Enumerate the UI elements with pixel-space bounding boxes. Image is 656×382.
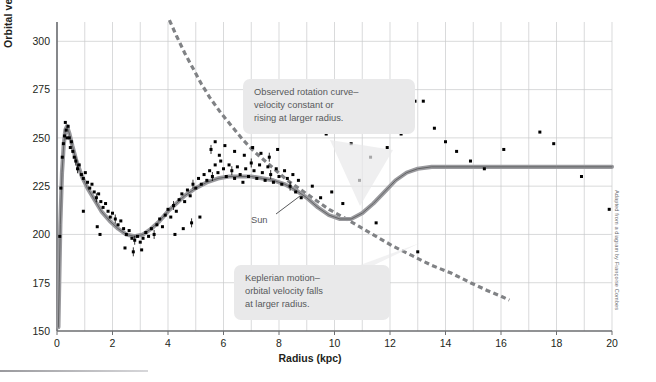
data-point bbox=[200, 183, 203, 186]
data-point bbox=[580, 175, 583, 178]
data-point bbox=[255, 177, 258, 180]
figure-credit: Adapted from a diagram by Françoise Comb… bbox=[614, 190, 620, 360]
data-point bbox=[150, 227, 153, 230]
data-point bbox=[191, 183, 194, 186]
data-point bbox=[236, 165, 239, 168]
y-tick-label: 225 bbox=[32, 180, 50, 192]
y-tick-label: 150 bbox=[32, 325, 50, 337]
data-point bbox=[164, 214, 167, 217]
data-point bbox=[205, 179, 208, 182]
data-point bbox=[283, 169, 286, 172]
data-point bbox=[230, 169, 233, 172]
data-point bbox=[455, 150, 458, 153]
x-tick-label: 4 bbox=[165, 337, 171, 349]
data-point bbox=[197, 177, 200, 180]
y-tick-label: 275 bbox=[32, 83, 50, 95]
data-point bbox=[311, 185, 314, 188]
data-point bbox=[69, 146, 72, 149]
data-point bbox=[102, 206, 105, 209]
data-point bbox=[386, 146, 389, 149]
x-tick-label: 10 bbox=[329, 337, 341, 349]
data-point bbox=[278, 175, 281, 178]
data-point bbox=[272, 181, 275, 184]
data-point bbox=[62, 142, 65, 145]
data-point bbox=[244, 167, 247, 170]
data-point bbox=[375, 221, 378, 224]
data-point bbox=[216, 171, 219, 174]
data-point bbox=[142, 237, 145, 240]
data-point bbox=[99, 233, 102, 236]
data-point bbox=[64, 121, 67, 124]
data-point bbox=[96, 225, 99, 228]
data-point bbox=[264, 179, 267, 182]
data-point bbox=[433, 127, 436, 130]
x-tick-label: 8 bbox=[276, 337, 282, 349]
x-tick-label: 14 bbox=[440, 337, 452, 349]
data-point bbox=[483, 167, 486, 170]
data-point bbox=[250, 161, 253, 164]
data-point bbox=[65, 129, 68, 132]
data-point bbox=[68, 136, 71, 139]
data-point bbox=[294, 190, 297, 193]
data-point bbox=[469, 160, 472, 163]
data-point bbox=[275, 167, 278, 170]
data-point bbox=[225, 175, 228, 178]
data-point bbox=[140, 248, 143, 251]
data-point bbox=[132, 250, 135, 253]
x-tick-label: 12 bbox=[384, 337, 396, 349]
data-point bbox=[178, 198, 181, 201]
data-point bbox=[210, 148, 213, 151]
data-point bbox=[280, 183, 283, 186]
x-tick-label: 18 bbox=[551, 337, 563, 349]
annotation-observed-text: Observed rotation curve– velocity consta… bbox=[254, 87, 358, 123]
y-tick-label: 250 bbox=[32, 132, 50, 144]
x-tick-label: 16 bbox=[495, 337, 507, 349]
data-point bbox=[70, 140, 73, 143]
data-point bbox=[608, 208, 611, 211]
data-point bbox=[416, 250, 419, 253]
data-point bbox=[239, 173, 242, 176]
data-point bbox=[276, 148, 279, 151]
data-point bbox=[153, 233, 156, 236]
data-point bbox=[253, 169, 256, 172]
y-tick-label: 175 bbox=[32, 277, 50, 289]
data-point bbox=[444, 140, 447, 143]
data-point bbox=[82, 210, 85, 213]
data-point bbox=[114, 217, 117, 220]
x-tick-label: 6 bbox=[221, 337, 227, 349]
data-point bbox=[76, 167, 79, 170]
data-point bbox=[247, 175, 250, 178]
x-tick-label: 0 bbox=[54, 337, 60, 349]
data-point bbox=[241, 181, 244, 184]
data-point bbox=[228, 163, 231, 166]
data-point bbox=[59, 187, 62, 190]
data-point bbox=[122, 227, 125, 230]
data-point bbox=[214, 140, 217, 143]
data-point bbox=[194, 187, 197, 190]
data-point bbox=[251, 146, 254, 149]
x-tick-label: 2 bbox=[110, 337, 116, 349]
data-point bbox=[139, 241, 142, 244]
data-point bbox=[183, 200, 186, 203]
data-point bbox=[128, 229, 131, 232]
data-point bbox=[117, 223, 120, 226]
y-tick-label: 200 bbox=[32, 228, 50, 240]
data-point bbox=[78, 163, 81, 166]
data-point bbox=[167, 208, 170, 211]
data-point bbox=[289, 185, 292, 188]
data-point bbox=[319, 196, 322, 199]
data-point bbox=[291, 173, 294, 176]
data-point bbox=[74, 160, 77, 163]
data-point bbox=[198, 216, 201, 219]
data-point bbox=[111, 212, 114, 215]
data-point bbox=[123, 246, 126, 249]
annotation-observed-rotation-curve: Observed rotation curve– velocity consta… bbox=[243, 79, 415, 134]
data-point bbox=[182, 227, 185, 230]
data-point bbox=[266, 165, 269, 168]
data-point bbox=[258, 163, 261, 166]
annotation-keplerian-text: Keplerian motion– orbital velocity falls… bbox=[245, 273, 323, 309]
data-point bbox=[219, 160, 222, 163]
data-point bbox=[297, 179, 300, 182]
data-point bbox=[341, 202, 344, 205]
data-point bbox=[330, 190, 333, 193]
